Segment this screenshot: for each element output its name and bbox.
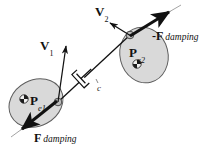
force-damping-label: Fdamping (34, 129, 77, 145)
velocity-2-arrow (110, 23, 131, 36)
force-damping-tail (11, 129, 22, 137)
velocity-1-label: V1 (40, 39, 53, 56)
body-1-subscript: e1 (38, 103, 46, 113)
body-2-subscript: e2 (137, 55, 145, 65)
body-1-label: Pe1 (30, 92, 46, 111)
velocity-1-subscript: 1 (49, 49, 53, 58)
body-1-center-marker (20, 95, 28, 103)
physics-diagram: V1 V2 -Fdamping Fdamping Pe1 Pe2 c (0, 0, 206, 148)
damper-coefficient-label: c (97, 84, 101, 93)
velocity-2-subscript: 2 (104, 15, 108, 24)
force-damping-subscript: damping (41, 134, 76, 144)
body-2-symbol: P (129, 45, 137, 60)
body-2-label: Pe2 (129, 44, 145, 63)
velocity-1-symbol: V (40, 38, 49, 53)
velocity-2-symbol: V (95, 4, 104, 19)
force-damping-reaction-label: -Fdamping (152, 27, 199, 43)
body-1-symbol: P (30, 93, 38, 108)
damper-symbol (72, 62, 97, 87)
force-damping-reaction-tail (169, 5, 181, 12)
diagram-canvas (0, 0, 206, 148)
velocity-2-label: V2 (95, 5, 108, 22)
connector-line (58, 35, 130, 102)
force-damping-reaction-subscript: damping (163, 32, 198, 42)
